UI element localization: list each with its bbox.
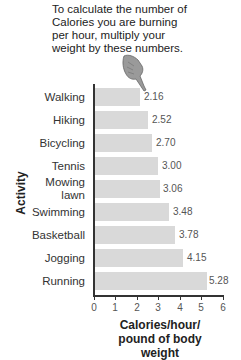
value-swimming: 3.48 (173, 206, 192, 217)
value-running: 5.28 (209, 275, 228, 286)
tick-label-5: 5 (194, 302, 208, 313)
tick-0 (94, 296, 95, 300)
tick-label-3: 3 (151, 302, 165, 313)
tick-1 (115, 296, 116, 300)
tick-3 (158, 296, 159, 300)
x-axis-label-line-1: Calories/hour/ (100, 318, 220, 332)
bar-jogging (94, 249, 183, 267)
bar-mowing-lawn (94, 180, 160, 198)
tick-4 (180, 296, 181, 300)
tick-label-6: 6 (216, 302, 230, 313)
bar-basketball (94, 226, 175, 244)
tick-label-4: 4 (173, 302, 187, 313)
category-running: Running (42, 275, 85, 288)
value-mowing-lawn: 3.06 (163, 183, 182, 194)
category-jogging: Jogging (45, 252, 85, 265)
value-jogging: 4.15 (187, 252, 206, 263)
category-mowing: Mowing (45, 176, 85, 189)
pointing-hand-icon (118, 52, 150, 92)
value-walking: 2.16 (144, 91, 163, 102)
bar-running (94, 272, 207, 290)
bar-bicycling (94, 134, 152, 152)
y-axis-line (93, 84, 95, 296)
bar-tennis (94, 157, 158, 175)
bar-swimming (94, 203, 169, 221)
tick-label-0: 0 (87, 302, 101, 313)
note-line-3: per hour, multiply your (52, 29, 232, 42)
category-lawn: lawn (61, 189, 85, 202)
x-axis-label-line-2: pound of body weight (100, 332, 220, 360)
value-bicycling: 2.70 (156, 137, 175, 148)
tick-6 (223, 296, 224, 300)
y-axis-label: Activity (14, 170, 28, 216)
x-axis-label: Calories/hour/ pound of body weight (100, 318, 220, 360)
category-walking: Walking (45, 91, 85, 104)
instruction-note: To calculate the number of Calories you … (52, 3, 232, 55)
category-tennis: Tennis (52, 160, 85, 173)
category-basketball: Basketball (32, 229, 85, 242)
value-basketball: 3.78 (179, 229, 198, 240)
note-line-2: Calories you are burning (52, 16, 232, 29)
bar-walking (94, 88, 140, 106)
value-hiking: 2.52 (152, 114, 171, 125)
category-hiking: Hiking (53, 114, 85, 127)
tick-2 (137, 296, 138, 300)
tick-label-1: 1 (108, 302, 122, 313)
bar-hiking (94, 111, 148, 129)
category-bicycling: Bicycling (40, 137, 85, 150)
category-swimming: Swimming (32, 206, 85, 219)
note-line-1: To calculate the number of (52, 3, 232, 16)
tick-5 (201, 296, 202, 300)
value-tennis: 3.00 (162, 160, 181, 171)
tick-label-2: 2 (130, 302, 144, 313)
